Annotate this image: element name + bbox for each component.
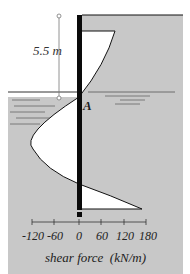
axis-title: shear force (kN/m) <box>45 250 146 265</box>
sheet-pile-wall <box>77 15 82 210</box>
tick-label: 120 <box>116 229 134 243</box>
tick-label: -60 <box>47 229 63 243</box>
figure-canvas: 5.5 m A -120 -60 0 60 120 180 shear forc… <box>0 0 190 274</box>
dimension-top-marker <box>57 14 61 18</box>
tick-label: -120 <box>22 229 44 243</box>
tick-label: 180 <box>139 229 157 243</box>
dimension-label: 5.5 m <box>33 43 62 58</box>
wall-toe-marker <box>77 212 82 217</box>
dimension-bottom-marker <box>57 96 61 100</box>
tick-label: 60 <box>96 229 108 243</box>
tick-label: 0 <box>76 229 82 243</box>
point-a-label: A <box>82 98 92 113</box>
shear-force-figure: 5.5 m A -120 -60 0 60 120 180 shear forc… <box>0 0 190 274</box>
